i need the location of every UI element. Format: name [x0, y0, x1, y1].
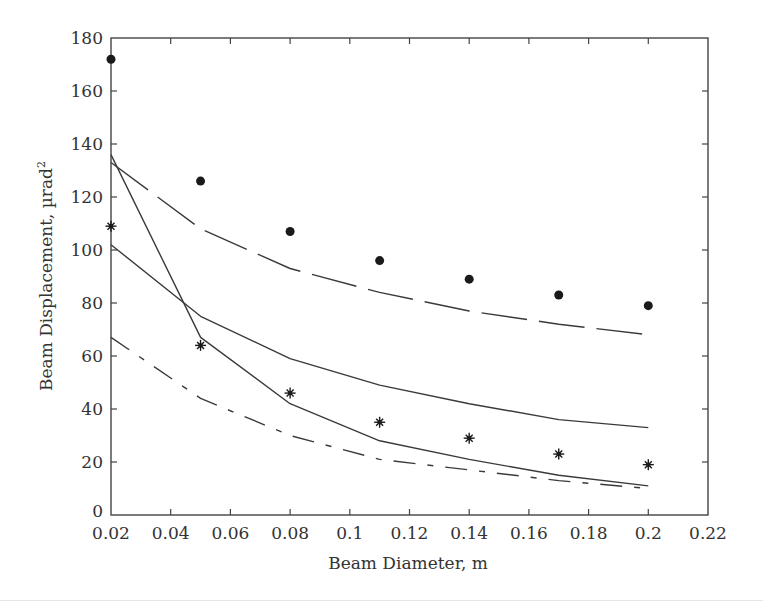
x-tick-label: 0.16 — [510, 523, 548, 543]
y-axis-title-superscript: 2 — [35, 161, 48, 168]
dot-marker — [196, 177, 205, 186]
beam-displacement-chart: 0.020.040.060.080.10.120.140.160.180.20.… — [0, 0, 763, 608]
solid-upper-curve — [111, 245, 648, 428]
solid-steep-curve — [111, 155, 648, 486]
x-tick-label: 0.06 — [211, 523, 249, 543]
y-tick-label: 180 — [71, 28, 103, 48]
x-tick-label: 0.2 — [635, 523, 662, 543]
x-tick-label: 0.08 — [271, 523, 309, 543]
star-marker — [285, 388, 296, 399]
star-marker — [553, 449, 564, 460]
dot-marker — [554, 291, 563, 300]
x-tick-label: 0.02 — [92, 523, 130, 543]
y-axis-title: Beam Displacement, µrad2 — [35, 161, 56, 391]
series-layer — [106, 55, 654, 489]
dot-marker — [644, 301, 653, 310]
x-tick-label: 0.1 — [336, 523, 363, 543]
y-axis-title-text: Beam Displacement, µrad — [36, 168, 56, 391]
x-axis-ticks: 0.020.040.060.080.10.120.140.160.180.20.… — [92, 38, 727, 543]
star-marker — [643, 459, 654, 470]
plot-border — [111, 38, 708, 515]
x-tick-label: 0.12 — [391, 523, 429, 543]
page-divider — [0, 600, 763, 601]
star-marker — [106, 221, 117, 232]
star-marker — [195, 340, 206, 351]
y-tick-label: 100 — [71, 240, 103, 260]
y-tick-label: 120 — [71, 187, 103, 207]
dot-marker — [465, 275, 474, 284]
y-tick-label: 140 — [71, 134, 103, 154]
measured-dots — [107, 55, 653, 310]
star-marker — [464, 433, 475, 444]
dot-marker — [286, 227, 295, 236]
y-tick-label: 160 — [71, 81, 103, 101]
dot-marker — [107, 55, 116, 64]
x-tick-label: 0.14 — [450, 523, 488, 543]
plot-frame — [111, 38, 708, 515]
y-tick-label: 0 — [92, 501, 103, 521]
star-marker — [374, 417, 385, 428]
y-tick-label: 20 — [81, 452, 103, 472]
x-tick-label: 0.04 — [152, 523, 190, 543]
x-tick-label: 0.18 — [570, 523, 608, 543]
x-axis-title: Beam Diameter, m — [328, 553, 488, 573]
y-tick-label: 80 — [81, 293, 103, 313]
y-axis-ticks: 020406080100120140160180 — [71, 28, 708, 521]
dash-dot-curve — [111, 337, 648, 488]
y-tick-label: 40 — [81, 399, 103, 419]
x-tick-label: 0.22 — [689, 523, 727, 543]
dot-marker — [375, 256, 384, 265]
y-tick-label: 60 — [81, 346, 103, 366]
